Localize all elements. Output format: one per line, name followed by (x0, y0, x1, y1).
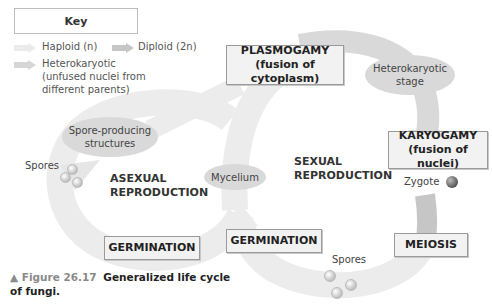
zygote-label: Zygote (404, 176, 439, 187)
key-title: Key (14, 8, 138, 34)
key-heterokaryotic-line3: different parents) (42, 83, 146, 96)
spore-icon (345, 279, 357, 291)
spores-sexual-label: Spores (332, 254, 366, 265)
spore-icon (324, 270, 336, 282)
figure-title-line2: of fungi. (10, 284, 230, 298)
spore-icon (72, 177, 83, 188)
haploid-arrow-icon (14, 43, 36, 53)
meiosis-box: MEIOSIS (394, 233, 468, 257)
spore-structures-line2: structures (85, 137, 136, 150)
heterokaryotic-stage-line2: stage (396, 75, 424, 88)
asexual-line2: REPRODUCTION (110, 186, 208, 200)
zygote-icon (446, 176, 458, 188)
germination-asexual-box: GERMINATION (104, 236, 200, 260)
figure-caption: ▲ Figure 26.17 Generalized life cycle of… (10, 270, 230, 298)
spore-producing-structures-ellipse: Spore-producing structures (62, 117, 158, 157)
spore-structures-line1: Spore-producing (69, 124, 151, 137)
heterokaryotic-stage-line1: Heterokaryotic (373, 62, 447, 75)
asexual-reproduction-label: ASEXUAL REPRODUCTION (110, 172, 208, 200)
plasmogamy-box: PLASMOGAMY (fusion of cytoplasm) (226, 45, 344, 85)
spore-icon (60, 172, 71, 183)
diploid-arrow-icon (112, 43, 134, 53)
karyogamy-title: KARYOGAMY (399, 129, 477, 143)
heterokaryotic-arrow-icon (14, 60, 36, 70)
asexual-line1: ASEXUAL (110, 172, 208, 186)
key-diploid-label: Diploid (2n) (138, 40, 197, 53)
key-heterokaryotic-line2: (unfused nuclei from (42, 70, 146, 83)
figure-number: ▲ Figure 26.17 (10, 271, 97, 283)
key-heterokaryotic-label: Heterokaryotic (unfused nuclei from diff… (42, 57, 146, 96)
key-heterokaryotic-line1: Heterokaryotic (42, 57, 146, 70)
heterokaryotic-stage-ellipse: Heterokaryotic stage (365, 55, 455, 95)
sexual-line1: SEXUAL (294, 155, 392, 169)
germination-sexual-box: GERMINATION (226, 229, 322, 253)
mycelium-ellipse: Mycelium (204, 164, 266, 190)
figure-title-line1: Generalized life cycle (103, 271, 230, 283)
sexual-reproduction-label: SEXUAL REPRODUCTION (294, 155, 392, 183)
sexual-line2: REPRODUCTION (294, 169, 392, 183)
spore-icon (331, 287, 343, 299)
plasmogamy-title: PLASMOGAMY (241, 44, 329, 58)
karyogamy-box: KARYOGAMY (fusion of nuclei) (388, 131, 488, 169)
key-haploid-label: Haploid (n) (42, 40, 97, 53)
spores-asexual-label: Spores (25, 160, 59, 171)
karyogamy-subtitle: (fusion of nuclei) (389, 143, 487, 171)
plasmogamy-subtitle: (fusion of cytoplasm) (227, 58, 343, 86)
